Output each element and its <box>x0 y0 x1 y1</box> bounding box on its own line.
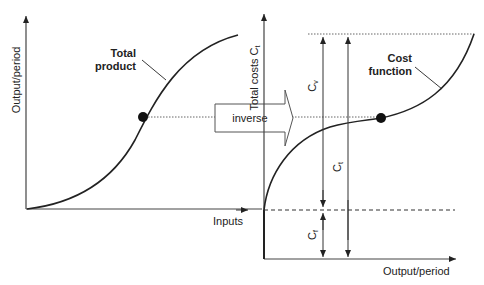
total-product-pointer <box>142 60 166 80</box>
total-product-label-1: Total <box>111 47 136 59</box>
cost-function-label-1: Cost <box>388 52 413 64</box>
right-chart: Total costs Ct Output/period Cost functi… <box>236 14 475 277</box>
left-y-axis-label: Output/period <box>10 47 22 114</box>
diagram-svg: Output/period Inputs Total product inver… <box>0 0 484 285</box>
right-y-axis-label: Total costs Ct <box>248 45 261 110</box>
inverse-cost-function-diagram: Output/period Inputs Total product inver… <box>0 0 484 285</box>
right-x-axis-label: Output/period <box>383 265 450 277</box>
inverse-arrow-label: inverse <box>232 112 267 124</box>
cf-label: Cf <box>306 230 319 240</box>
left-x-axis-label: Inputs <box>213 215 243 227</box>
cost-function-label-2: function <box>369 65 413 77</box>
cost-function-pointer <box>415 67 442 89</box>
ct-label: Ct <box>331 162 344 172</box>
total-product-point <box>138 112 148 122</box>
cost-function-point <box>376 113 386 123</box>
cv-label: Cv <box>306 80 319 92</box>
total-product-label-2: product <box>95 60 136 72</box>
cost-function-curve <box>264 34 474 210</box>
